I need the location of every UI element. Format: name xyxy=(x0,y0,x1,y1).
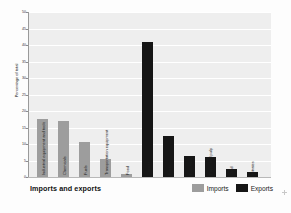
y-tick-label: 10 xyxy=(14,142,26,146)
bar-group: Chemicals xyxy=(58,12,69,177)
legend-swatch-exports xyxy=(236,184,248,192)
y-tick-label: 5 xyxy=(14,159,26,163)
bar-category-label: Fuels xyxy=(82,165,87,175)
bar-chart-figure: 05101520253035404550 Percentage of total… xyxy=(0,0,291,213)
bar-group: Nitrates xyxy=(247,12,258,177)
bar-group: Copper xyxy=(142,12,153,177)
legend-label-exports: Exports xyxy=(251,185,273,192)
y-tick-label: 40 xyxy=(14,43,26,47)
bar-category-label: Paper and pulp xyxy=(208,148,213,175)
legend-item-exports: Exports xyxy=(236,184,273,192)
bar xyxy=(142,42,153,177)
bar-group: Industrial equipment and tools xyxy=(37,12,48,177)
bar-group: Fuels xyxy=(79,12,90,177)
bar-group: Paper and pulp xyxy=(205,12,216,177)
y-tick-label: 15 xyxy=(14,126,26,130)
gridline xyxy=(28,177,271,178)
y-tick-label: 45 xyxy=(14,27,26,31)
bar-group: Gold xyxy=(226,12,237,177)
bar-category-label: Food xyxy=(124,166,129,175)
bar-group: Food xyxy=(121,12,132,177)
chart-caption: Imports and exports xyxy=(30,184,101,193)
bar-series-group: Industrial equipment and toolsChemicalsF… xyxy=(28,12,271,177)
bar-category-label: Industrial equipment and tools xyxy=(40,122,45,175)
y-tick-label: 0 xyxy=(14,175,26,179)
legend-swatch-imports xyxy=(192,184,204,192)
y-axis-title: Percentage of total xyxy=(14,51,19,111)
bar-category-label: Fish meal xyxy=(187,158,192,175)
legend-label-imports: Imports xyxy=(207,185,229,192)
bar-category-label: Fruits xyxy=(166,165,171,175)
bar-category-label: Gold xyxy=(229,167,234,175)
bar-category-label: Copper xyxy=(145,162,150,175)
bar-group: Fish meal xyxy=(184,12,195,177)
bar-group: Fruits xyxy=(163,12,174,177)
bar-category-label: Transportation equipment xyxy=(103,130,108,175)
y-tick-label: 50 xyxy=(14,10,26,14)
bar-group: Transportation equipment xyxy=(100,12,111,177)
y-tick-mark xyxy=(26,177,28,178)
legend-item-imports: Imports xyxy=(192,184,229,192)
bar-category-label: Nitrates xyxy=(250,161,255,175)
registration-crosshair-icon xyxy=(282,190,287,195)
bar-category-label: Chemicals xyxy=(61,156,66,175)
chart-legend: Imports Exports xyxy=(192,184,273,192)
